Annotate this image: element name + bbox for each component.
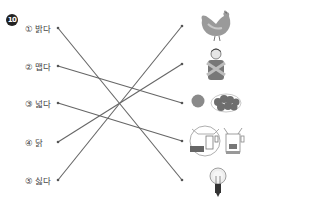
tomato-peppers-icon <box>190 88 246 114</box>
line-3-to-4 <box>58 103 182 141</box>
room-icon <box>188 124 248 158</box>
light-bulb-icon <box>208 166 228 198</box>
person-crossed-arms-icon <box>203 47 229 81</box>
line-2-to-3 <box>58 66 182 103</box>
chicken-icon <box>198 10 236 42</box>
